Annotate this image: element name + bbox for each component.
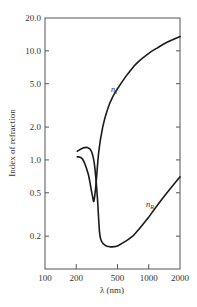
x-tick-label: 2000 — [171, 273, 190, 283]
series-label-n-r: nR — [146, 199, 154, 210]
curve-n-i — [77, 37, 180, 202]
x-tick-label: 500 — [111, 273, 125, 283]
y-tick-label: 10.0 — [25, 46, 41, 56]
y-tick-label: 20.0 — [25, 13, 41, 23]
x-tick-label: 100 — [38, 273, 52, 283]
x-axis-label: λ (nm) — [100, 285, 124, 295]
x-tick-label: 1000 — [140, 273, 159, 283]
series-label-n-i: nI — [111, 84, 118, 95]
y-tick-label: 1.0 — [30, 155, 42, 165]
y-tick-label: 2.0 — [30, 122, 42, 132]
y-tick-label: 0.5 — [30, 188, 42, 198]
plot-frame — [45, 18, 180, 269]
refractive-index-chart: 0.20.51.02.05.010.020.0 1002005001000200… — [0, 0, 197, 307]
curves — [77, 37, 180, 247]
x-tick-label: 200 — [69, 273, 83, 283]
y-tick-label: 5.0 — [30, 79, 42, 89]
x-axis-ticks: 10020050010002000 — [38, 264, 189, 283]
y-tick-label: 0.2 — [30, 231, 41, 241]
y-axis-label: Index of refraction — [7, 109, 17, 177]
